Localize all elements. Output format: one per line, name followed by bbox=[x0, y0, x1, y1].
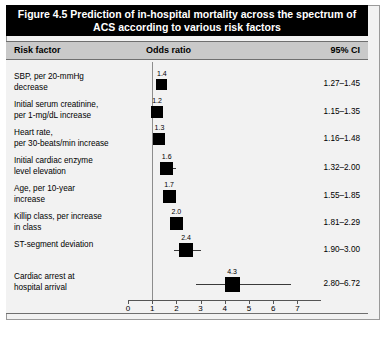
risk-factor-label: Heart rate,per 30-beats/min increase bbox=[14, 128, 142, 149]
odds-ratio-marker bbox=[225, 277, 240, 292]
odds-ratio-marker bbox=[151, 106, 163, 118]
risk-factor-label-line: per 30-beats/min increase bbox=[14, 139, 142, 150]
figure-title: Figure 4.5 Prediction of in-hospital mor… bbox=[12, 8, 362, 34]
risk-factor-label: Cardiac arrest athospital arrival bbox=[14, 272, 142, 293]
risk-factor-label: SBP, per 20-mmHgdecrease bbox=[14, 72, 142, 93]
risk-factor-label-line: Killip class, per increase bbox=[14, 212, 142, 223]
risk-factor-label-line: Initial serum creatinine, bbox=[14, 100, 142, 111]
x-axis-tick-label: 6 bbox=[271, 304, 275, 313]
odds-ratio-marker bbox=[170, 217, 183, 230]
odds-ratio-value-label: 1.3 bbox=[149, 124, 169, 131]
ci-value: 1.16–1.48 bbox=[270, 134, 360, 143]
x-axis-tick-label: 5 bbox=[247, 304, 251, 313]
column-header-risk-factor: Risk factor bbox=[14, 45, 61, 55]
risk-factor-label-line: decrease bbox=[14, 83, 142, 94]
reference-line bbox=[152, 62, 153, 300]
confidence-interval-whisker bbox=[174, 250, 201, 251]
column-header-ci: 95% CI bbox=[330, 45, 360, 55]
figure-title-bar: Figure 4.5 Prediction of in-hospital mor… bbox=[6, 5, 368, 36]
risk-factor-label-line: per 1-mg/dL increase bbox=[14, 111, 142, 122]
risk-factor-label-line: in class bbox=[14, 223, 142, 234]
x-axis-tick-label: 7 bbox=[295, 304, 299, 313]
odds-ratio-marker bbox=[179, 243, 193, 257]
ci-value: 2.80–6.72 bbox=[270, 279, 360, 288]
x-axis-tick-label: 0 bbox=[126, 304, 130, 313]
confidence-interval-whisker bbox=[159, 84, 163, 85]
ci-value: 1.32–2.00 bbox=[270, 163, 360, 172]
confidence-interval-whisker bbox=[156, 112, 161, 113]
odds-ratio-value-label: 1.7 bbox=[159, 181, 179, 188]
risk-factor-label-line: SBP, per 20-mmHg bbox=[14, 72, 142, 83]
odds-ratio-value-label: 1.6 bbox=[157, 153, 177, 160]
confidence-interval-whisker bbox=[156, 139, 164, 140]
risk-factor-label-line: level elevation bbox=[14, 167, 142, 178]
confidence-interval-whisker bbox=[172, 223, 184, 224]
ci-value: 1.15–1.35 bbox=[270, 107, 360, 116]
risk-factor-label: Killip class, per increasein class bbox=[14, 212, 142, 233]
risk-factor-label-line: Age, per 10-year bbox=[14, 184, 142, 195]
x-axis-tick-label: 4 bbox=[223, 304, 227, 313]
risk-factor-label: Age, per 10-yearincrease bbox=[14, 184, 142, 205]
table-header-row: Risk factor Odds ratio 95% CI bbox=[6, 41, 368, 60]
x-axis: 01234567 bbox=[6, 300, 368, 314]
confidence-interval-whisker bbox=[160, 168, 176, 169]
risk-factor-label: Initial cardiac enzymelevel elevation bbox=[14, 156, 142, 177]
risk-factor-label-line: Initial cardiac enzyme bbox=[14, 156, 142, 167]
column-header-odds-ratio: Odds ratio bbox=[146, 45, 191, 55]
risk-factor-label-line: Heart rate, bbox=[14, 128, 142, 139]
odds-ratio-value-label: 1.2 bbox=[147, 97, 167, 104]
odds-ratio-value-label: 1.4 bbox=[152, 70, 172, 77]
odds-ratio-value-label: 4.3 bbox=[222, 268, 242, 275]
risk-factor-label-line: ST-segment deviation bbox=[14, 240, 142, 251]
risk-factor-label: ST-segment deviation bbox=[14, 240, 142, 251]
risk-factor-label: Initial serum creatinine,per 1-mg/dL inc… bbox=[14, 100, 142, 121]
risk-factor-label-line: Cardiac arrest at bbox=[14, 272, 142, 283]
x-axis-tick-label: 3 bbox=[198, 304, 202, 313]
ci-value: 1.81–2.29 bbox=[270, 218, 360, 227]
odds-ratio-marker bbox=[163, 190, 176, 203]
x-axis-tick-label: 2 bbox=[174, 304, 178, 313]
ci-value: 1.90–3.00 bbox=[270, 245, 360, 254]
risk-factor-label-line: hospital arrival bbox=[14, 283, 142, 294]
odds-ratio-marker bbox=[156, 79, 167, 90]
odds-ratio-marker bbox=[153, 133, 165, 145]
odds-ratio-value-label: 2.0 bbox=[166, 208, 186, 215]
forest-plot-body: SBP, per 20-mmHgdecreaseInitial serum cr… bbox=[6, 60, 368, 314]
confidence-interval-whisker bbox=[166, 196, 173, 197]
x-axis-tick-label: 1 bbox=[150, 304, 154, 313]
ci-value: 1.27–1.45 bbox=[270, 79, 360, 88]
ci-value: 1.55–1.85 bbox=[270, 191, 360, 200]
odds-ratio-marker bbox=[160, 162, 173, 175]
risk-factor-label-line: increase bbox=[14, 195, 142, 206]
odds-ratio-value-label: 2.4 bbox=[176, 234, 196, 241]
